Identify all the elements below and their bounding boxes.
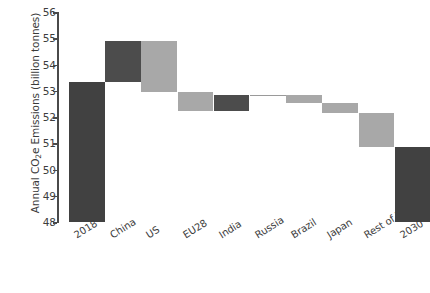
x-axis-category-label: China [108,216,138,240]
bar-us [141,41,177,92]
bar-rest-of-world [359,113,395,148]
bar-japan [322,103,358,113]
x-axis-category-label: Russia [253,214,286,240]
x-axis-category-label: Brazil [289,217,318,241]
bar-china [105,41,141,82]
bar-brazil [286,95,322,103]
x-axis-category-label: EU28 [181,217,209,240]
x-axis-category-label: Japan [325,216,354,240]
bar-russia [250,95,286,97]
bar-india [214,95,250,111]
y-axis-tick-labels: 565554535251504948 [34,0,56,293]
bar-2018 [69,82,105,222]
plot-area: 2018ChinaUSEU28IndiaRussiaBrazilJapanRes… [57,0,418,293]
bar-eu28 [178,92,214,111]
bar-2030 [395,147,430,222]
x-axis-category-label: India [217,218,243,240]
x-axis-category-label: US [144,224,161,240]
